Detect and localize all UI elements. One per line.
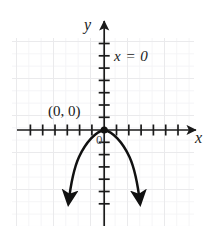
plot-canvas bbox=[0, 0, 208, 238]
y-axis-label: y bbox=[84, 17, 91, 33]
axis-of-symmetry-label: x = 0 bbox=[114, 49, 148, 64]
x-axis-label: x bbox=[195, 130, 202, 146]
parabola-figure: y x x = 0 (0, 0) 0 bbox=[0, 0, 208, 238]
origin-label: 0 bbox=[96, 133, 103, 146]
y-axis-group bbox=[99, 21, 110, 226]
vertex-coordinate-label: (0, 0) bbox=[48, 104, 81, 119]
